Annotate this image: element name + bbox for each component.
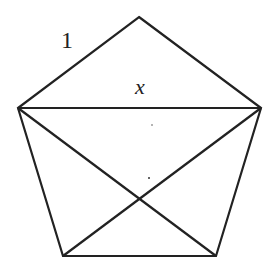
pentagon-figure [0,0,274,270]
diagonal-left-to-bottom-right [18,108,216,256]
pentagon-diagram: 1 x [0,0,274,270]
side-length-label: 1 [61,27,73,54]
stray-dot [151,124,153,126]
diagonal-length-label: x [135,74,145,100]
diagonal-right-to-bottom-left [63,108,261,256]
stray-dot-2 [148,177,150,179]
